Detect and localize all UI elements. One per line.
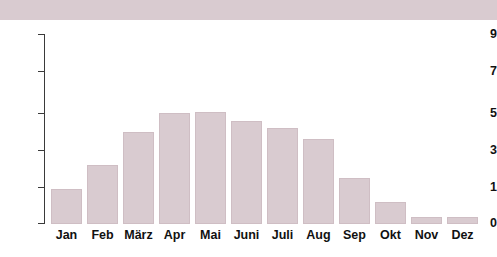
x-axis-label-juni: Juni — [231, 229, 262, 242]
y-axis-line — [44, 34, 45, 224]
y-tick-3 — [38, 150, 44, 151]
y-tick-0 — [38, 223, 44, 224]
y-axis-label-5: 5 — [461, 107, 497, 120]
bar-jan — [51, 189, 82, 224]
bar-okt — [375, 202, 406, 224]
plot-area: 9 7 5 3 1 0 Jan Feb März Apr — [0, 0, 497, 257]
bar-maerz — [123, 132, 154, 224]
bar-dez — [447, 217, 478, 224]
bar-feb — [87, 165, 118, 224]
y-tick-7 — [38, 71, 44, 72]
y-axis-label-7: 7 — [461, 65, 497, 78]
y-tick-1 — [38, 187, 44, 188]
x-axis-label-jan: Jan — [51, 229, 82, 242]
y-axis-label-3: 3 — [461, 144, 497, 157]
bar-apr — [159, 113, 190, 224]
x-axis-label-nov: Nov — [411, 229, 442, 242]
x-axis-label-maerz: März — [121, 229, 156, 242]
bar-aug — [303, 139, 334, 224]
x-axis-label-juli: Juli — [267, 229, 298, 242]
x-axis-label-apr: Apr — [159, 229, 190, 242]
bar-series — [0, 0, 497, 20]
bar-nov — [411, 217, 442, 224]
x-axis-label-dez: Dez — [447, 229, 478, 242]
y-tick-5 — [38, 113, 44, 114]
y-tick-9 — [38, 34, 44, 35]
bar-juni — [231, 121, 262, 224]
y-axis-label-9: 9 — [461, 28, 497, 41]
x-axis-label-sep: Sep — [339, 229, 370, 242]
bar-sep — [339, 178, 370, 224]
chart-screenshot: Stunden 9 7 5 3 1 0 — [0, 0, 497, 257]
bar-juli — [267, 128, 298, 224]
x-axis-label-feb: Feb — [87, 229, 118, 242]
x-axis-label-mai: Mai — [195, 229, 226, 242]
x-axis-label-okt: Okt — [375, 229, 406, 242]
y-axis-label-1: 1 — [461, 181, 497, 194]
bar-mai — [195, 112, 226, 224]
x-axis-label-aug: Aug — [303, 229, 334, 242]
